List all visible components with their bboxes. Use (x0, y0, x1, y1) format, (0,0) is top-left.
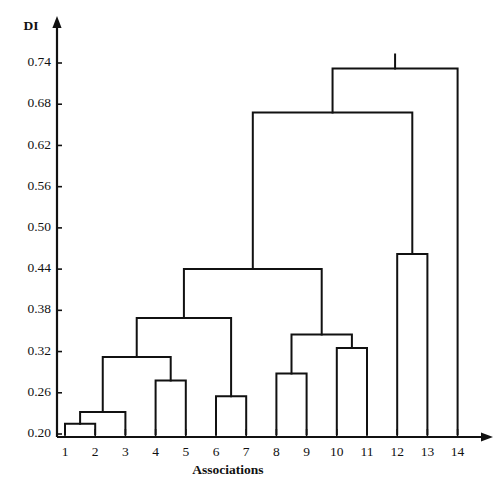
y-tick-label: 0.56 (27, 178, 51, 193)
x-tick-label: 11 (361, 444, 374, 459)
x-tick-label: 2 (92, 444, 99, 459)
y-axis-group (52, 16, 61, 437)
dendrogram-link (276, 374, 306, 434)
dendrogram-link (184, 269, 322, 334)
y-tick-label: 0.38 (27, 301, 51, 316)
x-axis-arrow (481, 432, 493, 441)
dendrogram-link (156, 380, 186, 434)
x-tick-label: 12 (390, 444, 404, 459)
y-axis-title: DI (23, 18, 38, 33)
x-tick-label: 6 (213, 444, 220, 459)
dendrogram-link (216, 396, 246, 434)
y-tick-labels-group: 0.200.260.320.380.440.500.560.620.680.74 (27, 54, 51, 440)
dendrogram-link (65, 424, 95, 434)
x-tick-labels-group: 1234567891011121314 (62, 444, 465, 459)
y-tick-label: 0.68 (27, 95, 51, 110)
y-tick-label: 0.44 (27, 260, 51, 275)
dendrogram-link (253, 112, 412, 269)
dendrogram-link (103, 357, 171, 412)
x-tick-group (65, 429, 458, 437)
y-tick-label: 0.26 (27, 384, 51, 399)
y-tick-label: 0.32 (27, 343, 51, 358)
x-tick-label: 4 (152, 444, 159, 459)
x-axis-title: Associations (192, 462, 263, 477)
x-tick-label: 7 (243, 444, 250, 459)
dendrogram-chart: 0.200.260.320.380.440.500.560.620.680.74… (0, 0, 504, 488)
x-tick-label: 10 (330, 444, 344, 459)
dendrogram-plot: 0.200.260.320.380.440.500.560.620.680.74… (0, 0, 504, 488)
y-tick-label: 0.20 (27, 425, 51, 440)
x-tick-label: 8 (273, 444, 280, 459)
dendrogram-link (397, 254, 427, 434)
x-tick-label: 13 (421, 444, 435, 459)
x-tick-label: 9 (303, 444, 310, 459)
x-tick-label: 1 (62, 444, 69, 459)
dendrogram-links-group (65, 54, 458, 434)
x-tick-label: 14 (451, 444, 465, 459)
y-tick-label: 0.50 (27, 219, 51, 234)
x-tick-label: 3 (122, 444, 129, 459)
dendrogram-link (333, 68, 458, 434)
dendrogram-link (292, 334, 352, 373)
dendrogram-link (337, 348, 367, 434)
x-tick-label: 5 (182, 444, 189, 459)
y-tick-label: 0.62 (27, 137, 51, 152)
y-axis-arrow (52, 16, 61, 28)
y-tick-label: 0.74 (27, 54, 51, 69)
